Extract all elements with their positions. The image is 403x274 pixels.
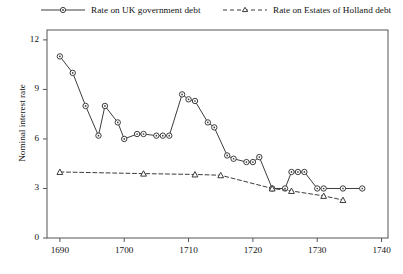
x-tick-label: 1730: [297, 245, 337, 255]
chart-plot-area: [0, 0, 403, 274]
y-tick-label: 3: [13, 182, 39, 192]
series-marker-center: [258, 156, 260, 158]
x-tick-label: 1720: [233, 245, 273, 255]
series-marker-center: [85, 105, 87, 107]
legend-sample-holland-line: [222, 4, 268, 16]
series-marker-center: [168, 135, 170, 137]
series-marker-center: [213, 127, 215, 129]
series-marker-center: [342, 188, 344, 190]
series-marker-center: [297, 171, 299, 173]
y-tick-label: 9: [13, 83, 39, 93]
series-marker-center: [123, 138, 125, 140]
series-marker-center: [252, 161, 254, 163]
y-tick-label: 0: [13, 232, 39, 242]
series-marker-center: [136, 133, 138, 135]
y-tick-label: 6: [13, 133, 39, 143]
series-marker-center: [188, 98, 190, 100]
x-tick-label: 1740: [362, 245, 402, 255]
series-marker-center: [304, 171, 306, 173]
legend-entry-holland: Rate on Estates of Holland debt: [222, 3, 391, 17]
series-marker-center: [207, 122, 209, 124]
series-marker-center: [162, 135, 164, 137]
series-marker-center: [156, 135, 158, 137]
series-marker-center: [143, 133, 145, 135]
series-line: [60, 56, 362, 188]
series-marker-center: [316, 188, 318, 190]
series-marker-center: [246, 161, 248, 163]
legend-label-holland: Rate on Estates of Holland debt: [273, 5, 391, 15]
y-tick-label: 12: [13, 34, 39, 44]
series-marker-center: [233, 158, 235, 160]
series-marker-center: [194, 100, 196, 102]
series-marker-center: [323, 188, 325, 190]
series-marker-center: [291, 171, 293, 173]
x-tick-label: 1710: [169, 245, 209, 255]
series-marker-center: [59, 56, 61, 58]
series-marker-center: [284, 188, 286, 190]
series-marker-center: [361, 188, 363, 190]
x-tick-label: 1690: [40, 245, 80, 255]
series-line: [60, 172, 343, 200]
series-marker-center: [181, 94, 183, 96]
chart-legend: Rate on UK government debt Rate on Estat…: [0, 0, 403, 22]
chart-figure: Rate on UK government debt Rate on Estat…: [0, 0, 403, 274]
series-marker-center: [117, 122, 119, 124]
y-axis-label: Nominal interest rate: [17, 43, 27, 203]
legend-sample-uk-line: [40, 4, 86, 16]
legend-label-uk: Rate on UK government debt: [91, 5, 200, 15]
series-marker-center: [72, 72, 74, 74]
legend-entry-uk: Rate on UK government debt: [40, 3, 200, 17]
series-marker-center: [104, 105, 106, 107]
series-marker-center: [226, 155, 228, 157]
x-tick-label: 1700: [104, 245, 144, 255]
series-marker-center: [98, 135, 100, 137]
